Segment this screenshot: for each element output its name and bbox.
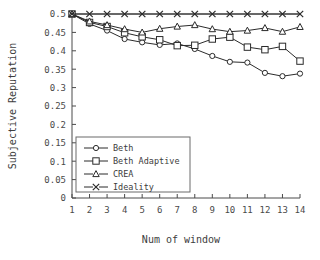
x-tick-label: 12 — [260, 205, 271, 215]
y-tick-label: 0.35 — [44, 65, 66, 75]
y-tick-label: 0.45 — [44, 28, 66, 38]
y-tick-label: 0.2 — [50, 120, 66, 130]
x-axis-title: Num of window — [142, 234, 221, 245]
x-tick-label: 13 — [277, 205, 288, 215]
chart-legend: BethBeth AdaptiveCREAIdeality — [76, 137, 190, 192]
data-point-marker — [174, 42, 180, 48]
legend-item-beth-adaptive: Beth Adaptive — [84, 156, 180, 166]
legend-label: Beth — [113, 143, 133, 153]
data-point-marker — [279, 43, 285, 49]
x-tick-label: 3 — [104, 205, 109, 215]
data-point-marker — [297, 71, 302, 76]
data-point-marker — [210, 53, 215, 58]
x-tick-label: 11 — [242, 205, 253, 215]
data-point-marker — [262, 46, 268, 52]
y-axis-title: Subjective Reputation — [7, 43, 18, 169]
legend-label: CREA — [113, 169, 133, 179]
x-tick-label: 4 — [122, 205, 127, 215]
data-point-marker — [227, 59, 232, 64]
data-point-marker — [122, 36, 127, 41]
legend-label: Ideality — [113, 182, 154, 192]
y-tick-label: 0 — [61, 193, 66, 203]
y-tick-label: 0.4 — [50, 46, 66, 56]
y-tick-label: 0.25 — [44, 101, 66, 111]
data-point-marker — [297, 58, 303, 64]
data-point-marker — [245, 60, 250, 65]
data-point-marker — [227, 34, 233, 40]
x-tick-label: 1 — [69, 205, 74, 215]
data-point-marker — [156, 37, 162, 43]
y-tick-label: 0.3 — [50, 83, 66, 93]
x-tick-label: 14 — [295, 205, 306, 215]
y-tick-label: 0.5 — [50, 9, 66, 19]
y-tick-label: 0.1 — [50, 157, 66, 167]
x-tick-label: 8 — [192, 205, 197, 215]
data-point-marker — [262, 70, 267, 75]
data-point-marker — [280, 74, 285, 79]
x-tick-label: 7 — [175, 205, 180, 215]
legend-marker-icon — [93, 158, 99, 164]
y-tick-label: 0.05 — [44, 175, 66, 185]
x-tick-label: 6 — [157, 205, 162, 215]
data-point-marker — [192, 42, 198, 48]
x-tick-label: 5 — [139, 205, 144, 215]
data-point-marker — [209, 36, 215, 42]
reputation-line-chart: 00.050.10.150.20.250.30.350.40.450.5 123… — [0, 0, 320, 260]
legend-label: Beth Adaptive — [113, 156, 180, 166]
data-point-marker — [244, 44, 250, 50]
legend-marker-icon — [93, 145, 98, 150]
x-tick-label: 10 — [224, 205, 235, 215]
x-tick-label: 9 — [210, 205, 215, 215]
y-tick-label: 0.15 — [44, 138, 66, 148]
x-tick-label: 2 — [87, 205, 92, 215]
